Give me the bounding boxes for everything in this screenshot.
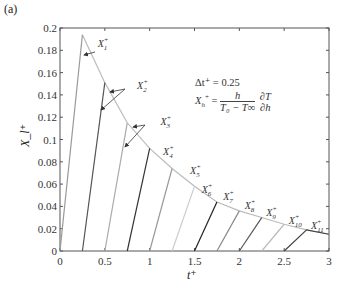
series-line-x10-plus [262,224,284,251]
formula-fraction: hT₀ − T∞ [220,90,255,113]
y-tick-label: 0.12 [38,111,57,123]
curve-label-x10: X10+ [288,213,303,229]
curve-label-x4: X4+ [162,144,174,160]
x-tick-label: 0 [57,255,63,267]
flux-formula: Xh+ = hT₀ − T∞ ∂T∂h [195,90,273,113]
series-line-x4-plus [127,148,149,251]
annotation-arrow [101,89,125,110]
x-tick-label: 2.5 [277,255,291,267]
x-tick-label: 2 [237,255,243,267]
formula-lhs-sub: h [201,101,205,109]
x-tick-label: 3 [326,255,332,267]
x-tick-label: 0.5 [98,255,112,267]
series-line-x8-plus [217,211,239,251]
annotation-arrow [125,125,145,147]
curve-label-x7: X7+ [222,189,234,205]
x-tick-label: 1 [147,255,153,267]
y-tick-label: 0.16 [38,67,58,79]
y-tick-label: 0.14 [38,89,58,101]
y-tick-label: 0.04 [38,200,58,212]
y-tick-label: 0.1 [43,134,57,146]
series-line-x1-plus [60,35,82,251]
series-line-x3-plus [105,123,127,251]
series-line-x2-plus [82,83,104,251]
series-line-x9-plus [239,218,261,251]
series-line-x6-plus [172,186,194,251]
series-line-x5-plus [150,168,172,251]
y-tick-label: 0 [52,245,58,257]
curve-label-x6: X6+ [201,182,213,198]
series-line-x7-plus [195,202,217,251]
x-tick-label: 1.5 [188,255,202,267]
y-axis-label: X_l⁺ [18,124,33,147]
annotation-arrow [84,52,95,55]
curve-label-x5: X5+ [189,163,201,179]
chart-area: 00.511.522.5300.020.040.060.080.10.120.1… [0,0,344,293]
y-tick-label: 0.02 [38,223,57,235]
x-axis-label: t⁺ [187,268,197,283]
envelope-line [82,35,329,235]
y-tick-label: 0.08 [38,156,58,168]
curve-label-x8: X8+ [244,198,256,214]
formula-annotation: Δt⁺ = 0.25 Xh+ = hT₀ − T∞ ∂T∂h [195,76,273,113]
delta-t-label: Δt⁺ = 0.25 [195,76,273,90]
y-tick-label: 0.18 [38,44,58,56]
curve-label-x3: X3+ [159,114,171,130]
formula-derivative: ∂T∂h [258,91,273,113]
curve-label-x2: X2+ [136,78,148,94]
curve-label-x1: X1+ [97,36,109,52]
y-tick-label: 0.2 [43,22,57,34]
y-tick-label: 0.06 [38,178,58,190]
